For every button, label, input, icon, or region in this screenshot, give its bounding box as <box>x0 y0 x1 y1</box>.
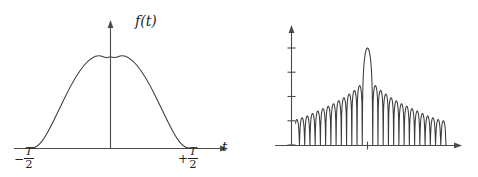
minus-sign: − <box>14 152 24 166</box>
time-x-tick-label-minus-half-T: −T2 <box>14 146 34 170</box>
fraction-denominator: 2 <box>188 159 198 171</box>
spectrum-plot: [dB] |F(ω)|2 0 −20 −40 −60 −80 0 ω <box>239 0 478 177</box>
fraction-T-over-2: T2 <box>188 146 198 170</box>
spectrum-curve <box>296 48 446 145</box>
time-domain-plot: f(t) t −T2 +T2 <box>0 0 239 177</box>
fraction-denominator: 2 <box>24 159 34 171</box>
time-y-axis-arrow-icon <box>108 20 114 28</box>
spectrum-svg <box>239 0 478 177</box>
time-domain-svg <box>0 0 239 177</box>
time-x-tick-label-plus-half-T: +T2 <box>178 146 198 170</box>
figure-two-panel-pulse-and-spectrum: f(t) t −T2 +T2 [dB] <box>0 0 478 177</box>
time-x-axis-label: t <box>222 140 227 153</box>
spectrum-x-axis-arrow-icon <box>454 143 462 149</box>
time-y-axis-label: f(t) <box>135 14 157 28</box>
plus-sign: + <box>178 152 188 166</box>
fraction-T-over-2: T2 <box>24 146 34 170</box>
spectrum-y-axis-arrow-icon <box>289 25 295 33</box>
